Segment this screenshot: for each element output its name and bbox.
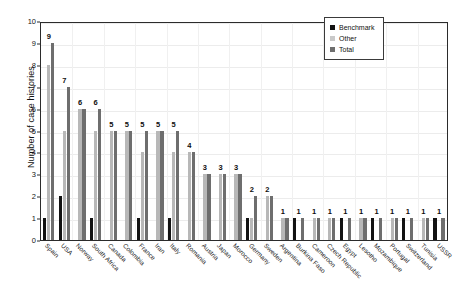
bar-value-label: 1 [312,207,316,216]
bar-value-label: 1 [406,207,410,216]
bar-other [78,109,81,240]
bar-total [192,152,195,240]
bar-value-label: 5 [140,120,144,129]
bar-other [63,131,66,241]
legend: Benchmark Other Total [324,17,384,60]
bar-value-label: 1 [328,207,332,216]
bar-other [328,218,331,240]
bar-value-label: 3 [203,163,207,172]
bar-value-label: 6 [94,98,98,107]
bar-other [359,218,362,240]
x-tick: Lesotho [354,244,370,302]
bar-value-label: 5 [172,120,176,129]
bar-benchmark [43,218,46,240]
x-tick: Argentina [275,244,291,302]
y-tick-mark [37,65,40,66]
bar-total [176,131,179,241]
bar-group: 4 [181,23,197,240]
bar-value-label: 3 [218,163,222,172]
bar-value-label: 1 [281,207,285,216]
y-tick-label: 0 [32,237,36,245]
x-tick: Canada [103,244,119,302]
bar-total [410,218,413,240]
y-tick-mark [37,109,40,110]
bar-group: 5 [119,23,135,240]
x-tick: Sweden [260,244,276,302]
bar-chart: Number of case histories 976655555433322… [0,0,456,304]
x-tick: Egypt [338,244,354,302]
bar-total [270,196,273,240]
legend-swatch-total [330,47,335,52]
x-tick-label: Iran [153,242,166,255]
x-tick: Italy [166,244,182,302]
y-tick-mark [37,219,40,220]
x-tick-label: USSR [436,242,454,260]
x-tick: Iran [150,244,166,302]
y-tick-mark [37,131,40,132]
bar-group: 1 [275,23,291,240]
bar-benchmark [371,218,374,240]
bar-benchmark [168,218,171,240]
x-tick: Burkina Faso [291,244,307,302]
bar-group: 1 [291,23,307,240]
x-axis-labels: SpainUSANorwaySouth AfricaCanadaColombia… [40,244,448,302]
bar-group: 5 [166,23,182,240]
bar-value-label: 1 [421,207,425,216]
x-tick: USA [56,244,72,302]
bar-groups: 97665555543332211111111111 [41,23,447,240]
bar-total [82,109,85,240]
bar-other [313,218,316,240]
legend-item-benchmark: Benchmark [330,22,374,33]
bar-benchmark [90,218,93,240]
bar-benchmark [137,218,140,240]
y-tick-mark [37,241,40,242]
bar-benchmark [59,196,62,240]
bar-other [281,218,284,240]
bar-group: 2 [260,23,276,240]
bar-total [98,109,101,240]
y-tick-mark [37,22,40,23]
legend-swatch-benchmark [330,25,335,30]
bar-group: 3 [228,23,244,240]
y-tick-label: 10 [28,18,36,26]
y-tick-mark [37,43,40,44]
bar-total [160,131,163,241]
bar-group: 1 [384,23,400,240]
y-tick-label: 8 [32,62,36,70]
bar-other [188,152,191,240]
bar-value-label: 5 [109,120,113,129]
bar-group: 7 [57,23,73,240]
bar-benchmark [293,218,296,240]
legend-label-other: Other [339,35,357,42]
bar-total [395,218,398,240]
bar-total [67,87,70,240]
bar-value-label: 6 [78,98,82,107]
x-tick: Mozambique [369,244,385,302]
bar-group: 1 [431,23,447,240]
bar-other [172,152,175,240]
bar-other [125,131,128,241]
x-tick: Norway [71,244,87,302]
bar-other [156,131,159,241]
bar-other [250,218,253,240]
plot-area: 97665555543332211111111111 [40,22,448,241]
bar-other [94,131,97,241]
bar-benchmark [402,218,405,240]
bar-value-label: 1 [375,207,379,216]
bar-group: 3 [197,23,213,240]
y-tick-label: 4 [32,150,36,158]
bar-group: 1 [400,23,416,240]
bar-value-label: 1 [359,207,363,216]
x-tick: France [134,244,150,302]
legend-swatch-other [330,36,335,41]
bar-other [47,65,50,240]
bar-group: 5 [135,23,151,240]
bar-total [363,218,366,240]
x-tick: Portugal [385,244,401,302]
bar-group: 6 [72,23,88,240]
bar-other [141,152,144,240]
bar-group: 5 [150,23,166,240]
bar-value-label: 1 [296,207,300,216]
bar-other [266,196,269,240]
bar-other [391,218,394,240]
